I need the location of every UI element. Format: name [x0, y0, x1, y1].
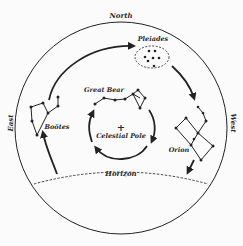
- bootes-constellation: Boötes: [30, 96, 70, 137]
- star: [175, 127, 178, 130]
- orion-constellation: Orion: [169, 106, 215, 162]
- star: [144, 97, 147, 100]
- label-west: West: [229, 114, 238, 134]
- arrow-north-to-west: [172, 66, 194, 98]
- label-east: East: [6, 114, 15, 133]
- arrow-orion-setting: [188, 160, 194, 172]
- star: [103, 97, 106, 100]
- star: [47, 112, 50, 115]
- star: [185, 117, 188, 120]
- star: [114, 99, 117, 102]
- label-north: North: [108, 11, 132, 20]
- star: [139, 107, 142, 110]
- label-great-bear: Great Bear: [84, 86, 124, 94]
- star: [193, 138, 196, 141]
- star: [197, 106, 200, 109]
- star: [205, 120, 208, 123]
- star: [190, 144, 193, 147]
- star: [132, 93, 135, 96]
- star: [212, 145, 215, 148]
- star: [94, 103, 97, 106]
- star: [154, 50, 157, 53]
- star: [42, 102, 45, 105]
- pleiades-constellation: Pleiades: [135, 35, 169, 68]
- star: [197, 132, 200, 135]
- pole-rotation-arrow-bottom: [96, 146, 147, 159]
- arrow-rising-bootes: [43, 133, 57, 174]
- pole-rotation-arrow-left: [89, 112, 93, 142]
- label-pleiades: Pleiades: [137, 35, 169, 43]
- star: [153, 65, 156, 68]
- label-celestial-pole: Celestial Pole: [96, 132, 146, 140]
- star: [57, 96, 60, 99]
- star: [158, 57, 161, 60]
- star: [202, 112, 205, 115]
- star: [152, 57, 155, 60]
- star: [147, 60, 150, 63]
- great-bear-constellation: Great Bear: [84, 86, 146, 110]
- star: [144, 56, 147, 59]
- sky-diagram: North East West Horizon Pleiades Great B…: [0, 0, 243, 246]
- label-bootes: Boötes: [44, 123, 70, 131]
- star: [148, 50, 151, 53]
- star: [36, 134, 39, 137]
- star: [124, 98, 127, 101]
- label-orion: Orion: [169, 146, 190, 154]
- pole-rotation-arrow-right: [149, 110, 155, 141]
- star: [30, 106, 33, 109]
- star: [200, 159, 203, 162]
- star: [57, 105, 60, 108]
- pleiades-cluster-outline: [135, 46, 169, 68]
- label-horizon: Horizon: [104, 169, 136, 178]
- star: [31, 120, 34, 123]
- star: [137, 89, 140, 92]
